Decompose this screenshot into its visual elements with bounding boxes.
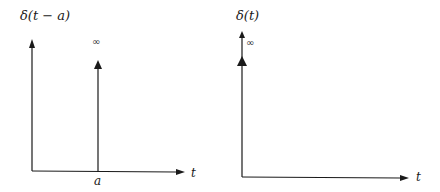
infinity-label: ∞: [92, 37, 100, 47]
plot-title-text: δ(t): [236, 8, 259, 23]
plot-title-text: δ(t − a): [20, 8, 70, 23]
plot-title: δ(t): [236, 9, 259, 22]
shifted-impulse-plot: δ(t − a) ∞ t a: [0, 0, 220, 192]
shifted-impulse-axes: [0, 0, 220, 192]
impulse-arrow-icon: [237, 56, 247, 66]
x-axis-line: [242, 177, 400, 178]
x-axis-line: [32, 171, 176, 172]
x-axis-arrow-icon: [176, 169, 185, 175]
y-axis-arrow-icon: [29, 39, 35, 48]
unit-impulse-axes: [220, 0, 440, 192]
x-axis-label: t: [416, 171, 421, 183]
x-axis-arrow-icon: [400, 175, 409, 181]
y-axis-arrow-icon: [239, 31, 245, 38]
plot-title: δ(t − a): [20, 9, 70, 22]
impulse-position-label: a: [94, 175, 101, 187]
x-axis-label: t: [191, 167, 196, 179]
infinity-label: ∞: [246, 38, 254, 48]
impulse-arrow-icon: [94, 60, 102, 69]
unit-impulse-plot: δ(t) ∞ t: [220, 0, 440, 192]
